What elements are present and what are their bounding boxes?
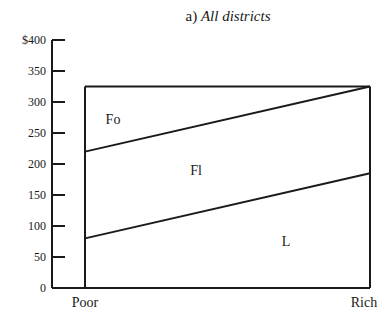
boundary-line-1 bbox=[85, 173, 370, 238]
x-axis-labels: PoorRich bbox=[72, 295, 377, 310]
y-tick-label: 250 bbox=[28, 126, 46, 140]
y-tick-label: 50 bbox=[34, 250, 46, 264]
y-tick-label: 0 bbox=[40, 281, 46, 295]
y-tick-label: 100 bbox=[28, 219, 46, 233]
chart-area: $400350300250200150100500 FoFlL PoorRich bbox=[0, 0, 392, 326]
y-tick-label: 150 bbox=[28, 188, 46, 202]
y-tick-label: $400 bbox=[22, 33, 46, 47]
x-label-rich: Rich bbox=[351, 295, 377, 310]
y-tick-label: 300 bbox=[28, 95, 46, 109]
region-label-fl: Fl bbox=[190, 163, 202, 178]
plot-area: FoFlL bbox=[85, 87, 370, 289]
y-tick-label: 350 bbox=[28, 64, 46, 78]
y-tick-label: 200 bbox=[28, 157, 46, 171]
region-label-fo: Fo bbox=[106, 112, 121, 127]
region-label-l: L bbox=[282, 234, 291, 249]
boundary-line-2 bbox=[85, 87, 370, 152]
x-label-poor: Poor bbox=[72, 295, 99, 310]
